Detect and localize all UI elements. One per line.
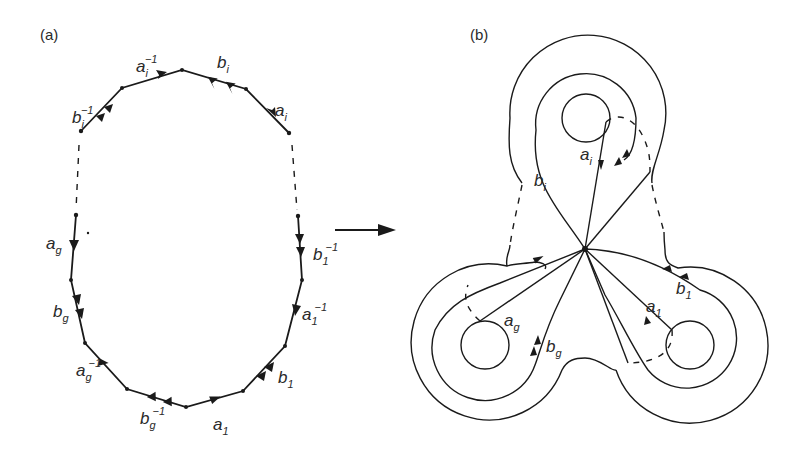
- polygon-labels: bi−1 ai−1 bi ai b1−1 a1−1 b1 a1 bg−1 ag−…: [46, 53, 338, 437]
- hole-top: [562, 94, 610, 142]
- diagram-canvas: (a): [0, 0, 802, 452]
- inner-loops: [432, 74, 737, 401]
- loop-ai: [585, 122, 606, 249]
- panel-a: (a): [40, 26, 338, 437]
- panel-a-label: (a): [40, 26, 58, 43]
- basepoint-mark: [87, 232, 89, 234]
- label-a1-inv: a1−1: [302, 301, 327, 327]
- hole-left: [461, 321, 509, 369]
- arrow-icon: [295, 234, 304, 244]
- a-loops: [466, 117, 673, 363]
- hole-right: [666, 321, 714, 369]
- surface-outer-boundary: [411, 35, 768, 423]
- arrow-icon: [614, 157, 622, 166]
- label-bg: bg: [546, 337, 562, 359]
- label-a1: a1: [646, 297, 662, 319]
- surface-labels: ai bi ag bg a1 b1: [504, 145, 692, 359]
- arrow-icon: [296, 247, 305, 257]
- panel-b: (b): [411, 26, 768, 423]
- label-bg: bg: [53, 302, 69, 324]
- label-ag: ag: [46, 234, 62, 256]
- basepoint: [582, 246, 588, 252]
- label-b1-inv: b1−1: [313, 241, 338, 267]
- arrow-icon: [534, 335, 541, 345]
- label-a1: a1: [213, 415, 229, 437]
- label-bi: bi: [217, 53, 229, 75]
- polygon-bottom: [69, 213, 305, 409]
- label-ai: ai: [275, 101, 287, 123]
- right-arrow-icon: [335, 224, 396, 236]
- panel-b-label: (b): [470, 26, 488, 43]
- label-ai-inv: ai−1: [136, 53, 157, 79]
- label-ag: ag: [504, 311, 520, 333]
- label-ai: ai: [580, 145, 592, 167]
- arrow-icon: [622, 149, 630, 158]
- arrow-icon: [644, 316, 651, 325]
- arrow-icon: [209, 394, 222, 405]
- gap-right: [292, 145, 297, 210]
- label-bi: bi: [534, 171, 546, 193]
- gap-left: [76, 145, 79, 210]
- label-bi-inv: bi−1: [72, 104, 93, 130]
- arrow-icon: [530, 346, 537, 356]
- label-ag-inv: ag−1: [76, 357, 101, 383]
- arrow-icon: [69, 240, 79, 251]
- polygon-top: [79, 68, 291, 135]
- label-bg-inv: bg−1: [140, 405, 165, 431]
- label-b1: b1: [278, 368, 294, 390]
